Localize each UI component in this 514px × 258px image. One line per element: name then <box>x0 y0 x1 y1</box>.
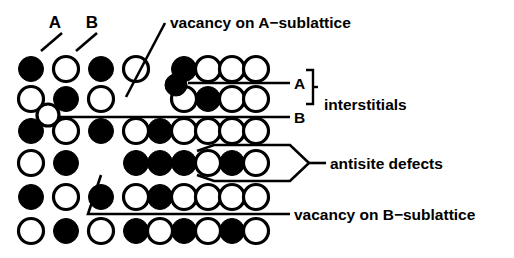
label-interstitial-b: B <box>294 109 305 126</box>
atom-b-open <box>89 219 114 244</box>
atom-b-open <box>244 185 269 210</box>
atom-b-open <box>244 87 269 112</box>
lattice-atoms-group <box>19 57 269 244</box>
atom-b-open <box>172 119 197 144</box>
atom-b-open <box>89 87 114 112</box>
atom-b-open <box>220 185 245 210</box>
label-b-atom: B <box>86 13 98 32</box>
lattice-diagram-canvas: A B vacancy on A−sublattice A B intersti… <box>0 0 514 258</box>
atom-a-filled <box>148 151 173 176</box>
atom-b-open <box>244 151 269 176</box>
atom-a-filled <box>89 185 114 210</box>
atom-b-open <box>244 119 269 144</box>
atom-b-open <box>220 57 245 82</box>
atom-a-filled <box>19 57 44 82</box>
atom-b-open <box>19 151 44 176</box>
atom-b-open <box>124 185 149 210</box>
atom-a-filled <box>196 87 221 112</box>
atom-a-filled <box>172 219 197 244</box>
label-a-atom: A <box>49 13 61 32</box>
label-antisite-defects: antisite defects <box>330 155 443 172</box>
atom-a-filled <box>54 219 79 244</box>
atom-a-filled <box>54 151 79 176</box>
label-interstitial-a: A <box>294 75 305 92</box>
atom-b-open <box>124 119 149 144</box>
atom-b-open <box>244 219 269 244</box>
atom-a-filled <box>220 219 245 244</box>
label-vacancy-b: vacancy on B−sublattice <box>294 206 476 223</box>
atom-b-open <box>54 57 79 82</box>
atom-a-filled <box>148 119 173 144</box>
atom-b-open <box>54 185 79 210</box>
leader-line-a <box>41 33 62 51</box>
atom-a-filled <box>19 185 44 210</box>
atom-b-open <box>172 185 197 210</box>
atom-b-open <box>220 119 245 144</box>
atom-b-open <box>196 119 221 144</box>
atom-a-filled <box>220 151 245 176</box>
brace-interstitials <box>306 70 313 104</box>
atom-a-filled <box>148 185 173 210</box>
atom-a-filled <box>124 151 149 176</box>
label-vacancy-a: vacancy on A−sublattice <box>170 14 351 31</box>
atom-b-open <box>148 219 173 244</box>
atom-a-filled <box>172 151 197 176</box>
atom-b-open <box>19 219 44 244</box>
atom-b-open <box>196 57 221 82</box>
atom-b-open <box>196 185 221 210</box>
atom-a-filled <box>124 219 149 244</box>
leader-line-b <box>76 33 97 51</box>
defect-lattice-figure: A B vacancy on A−sublattice A B intersti… <box>0 0 514 258</box>
atom-b-open <box>244 57 269 82</box>
atom-interstitial-b <box>37 104 59 126</box>
atom-a-filled <box>89 57 114 82</box>
atom-b-open <box>196 151 221 176</box>
label-interstitials: interstitials <box>324 96 407 113</box>
atom-interstitial-a <box>165 74 187 96</box>
atom-b-open <box>196 219 221 244</box>
atom-b-open <box>220 87 245 112</box>
atom-a-filled <box>89 119 114 144</box>
